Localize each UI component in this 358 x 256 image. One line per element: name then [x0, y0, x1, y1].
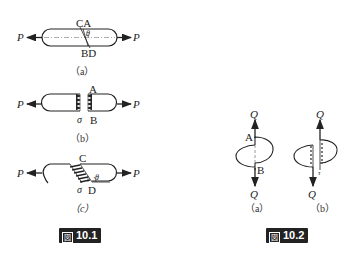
fig-10-2-panel-b [294, 120, 337, 186]
force-label-left: P [16, 31, 24, 43]
panel-c-sublabel: （c） [70, 203, 94, 214]
stress-label: σ [77, 114, 83, 125]
force-label-left: P [16, 167, 24, 179]
panel-b-sublabel: （b） [310, 203, 335, 214]
figure-caption-10-1: 図10.1 [59, 228, 101, 243]
figure-number: 10.2 [283, 229, 304, 241]
angle-label: θ [86, 29, 90, 38]
stress-label: τ [318, 169, 321, 177]
figure-glyph-icon: 図 [269, 232, 280, 243]
point-label-c: C [79, 152, 86, 164]
force-label-bottom: Q [308, 188, 316, 200]
shear-left-part [294, 145, 313, 167]
points-label-top: CA [76, 17, 91, 29]
fig-10-2-panel-a [236, 120, 273, 186]
force-label-right: P [132, 167, 140, 179]
angle-label: θ [95, 173, 99, 182]
fig-10-1-panel-b [27, 94, 131, 111]
right-half-body [88, 94, 117, 111]
points-label-bottom: BD [81, 47, 96, 59]
figure-caption-10-2: 図10.2 [266, 228, 308, 243]
shear-body-top [255, 137, 273, 163]
fig-10-1-panel-a [27, 27, 131, 48]
force-label-top: Q [316, 108, 324, 120]
figure-glyph-icon: 図 [62, 232, 73, 243]
force-label-left: P [16, 98, 24, 110]
stress-arrows-left [76, 96, 80, 108]
point-label-a: A [245, 131, 253, 143]
stress-label: σ [77, 184, 83, 195]
shear-body-left [236, 145, 255, 167]
left-part-body [43, 164, 70, 183]
panel-a-sublabel: （a） [70, 66, 94, 77]
figure-number: 10.1 [76, 229, 97, 241]
panel-a-sublabel: （a） [245, 203, 269, 214]
force-label-right: P [132, 31, 140, 43]
force-label-top: Q [250, 108, 258, 120]
point-label-d: D [88, 184, 96, 196]
left-half-body [42, 94, 81, 111]
point-label-b: B [90, 114, 97, 126]
force-label-bottom: Q [250, 188, 258, 200]
point-label-a: A [89, 83, 97, 95]
oblique-section-right [80, 164, 92, 182]
force-label-right: P [132, 98, 140, 110]
stress-arrows-right [88, 96, 92, 108]
point-label-b: B [257, 164, 264, 176]
panel-b-sublabel: （b） [70, 133, 95, 144]
fig-10-1-panel-c [27, 164, 131, 183]
